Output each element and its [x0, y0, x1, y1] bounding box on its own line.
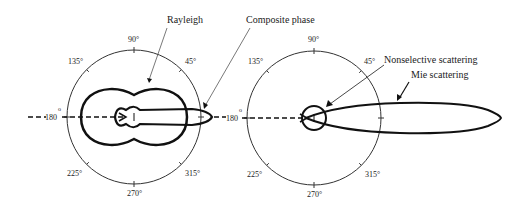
composite-leader-line [205, 28, 250, 106]
rayleigh-arrowhead-icon [147, 78, 152, 83]
nonselective-leader-line [330, 65, 384, 104]
nonselective-arrowhead-icon [326, 100, 333, 107]
left-label-45: 45° [185, 57, 196, 66]
left-label-270: 270° [127, 189, 142, 198]
left-label-225: 225° [67, 169, 82, 178]
right-label-180-degree: o [239, 107, 242, 113]
right-label-135: 135° [248, 57, 263, 66]
composite-phase-label: Composite phase [246, 14, 315, 25]
right-label-180: 180 [226, 114, 238, 123]
mie-leader-line [400, 82, 409, 97]
mie-label: Mie scattering [411, 69, 468, 80]
right-label-315: 315° [365, 170, 380, 179]
right-label-225: 225° [247, 170, 262, 179]
left-label-180: 180 [45, 113, 57, 122]
rayleigh-label: Rayleigh [167, 14, 203, 25]
left-label-180-degree: o [58, 106, 61, 112]
composite-arrowhead-icon [203, 102, 208, 109]
left-label-90: 90° [128, 35, 139, 44]
mie-lobe [306, 103, 501, 133]
right-label-90: 90° [308, 35, 319, 44]
rayleigh-leader-line [149, 28, 167, 80]
left-label-315: 315° [185, 169, 200, 178]
composite-phase-lobe [115, 107, 212, 128]
nonselective-label: Nonselective scattering [384, 54, 478, 65]
left-label-135: 135° [68, 57, 83, 66]
right-polar-plot: 90° 135° 45° 180 o 225° 315° 270° Nonsel… [226, 35, 501, 199]
scattering-phase-diagram: 90° 135° 45° 180 o 225° 315° 270° Raylei… [0, 0, 528, 214]
right-label-45: 45° [364, 57, 375, 66]
right-label-270: 270° [307, 190, 322, 199]
